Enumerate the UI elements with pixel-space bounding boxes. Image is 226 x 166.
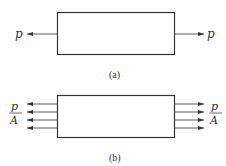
left-stress-label: p A: [9, 100, 22, 127]
right-distributed-arrows: [175, 104, 204, 128]
svg-text:A: A: [209, 114, 218, 127]
left-force-label: p: [15, 27, 23, 41]
right-stress-label: p A: [209, 100, 222, 127]
left-distributed-arrows: [27, 104, 57, 128]
svg-text:A: A: [9, 114, 18, 127]
svg-text:p: p: [211, 100, 218, 113]
caption-b: (b): [109, 152, 121, 164]
bar-b: [58, 96, 175, 138]
right-force-label: p: [207, 27, 215, 41]
bar-a: [58, 13, 175, 55]
svg-text:p: p: [11, 100, 18, 113]
caption-a: (a): [109, 69, 120, 81]
bar-tension-diagram: p p (a) p A p A (b): [0, 0, 226, 166]
figure-a: p p (a): [15, 13, 215, 82]
figure-b: p A p A (b): [9, 96, 222, 165]
